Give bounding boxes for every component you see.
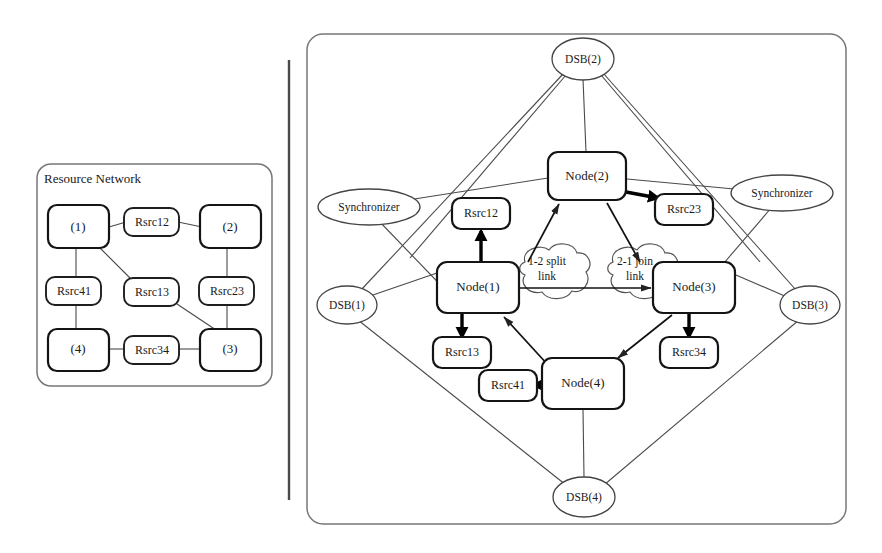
dsb-1: DSB(1) <box>317 286 377 324</box>
dsb-1-label: DSB(1) <box>329 299 365 312</box>
left-node-4: (4) <box>48 329 109 371</box>
join-link-label: 2-1 join link <box>617 255 653 282</box>
dsb-4-label: DSB(4) <box>566 491 602 504</box>
left-node-2: (2) <box>200 205 261 248</box>
node-flow-arrows <box>504 203 672 365</box>
dsb-3: DSB(3) <box>780 286 840 324</box>
left-resource-rsrc13-label: Rsrc13 <box>135 285 169 299</box>
right-node-4: Node(4) <box>542 358 624 409</box>
left-resource-rsrc34-label: Rsrc34 <box>135 343 169 357</box>
right-resource-rsrc41-label: Rsrc41 <box>491 378 525 392</box>
right-resource-rsrc13: Rsrc13 <box>433 337 491 368</box>
left-resource-rsrc23-label: Rsrc23 <box>210 284 244 298</box>
join-link-label-line2: link <box>626 270 644 282</box>
split-link-label: 1-2 split link <box>528 255 567 282</box>
right-node-1-label: Node(1) <box>456 279 499 294</box>
dsb-2: DSB(2) <box>552 38 614 80</box>
right-resource-rsrc13-label: Rsrc13 <box>445 345 479 359</box>
right-resource-rsrc23-label: Rsrc23 <box>667 202 701 216</box>
split-link-label-line1: 1-2 split <box>528 255 567 268</box>
resource-network-title: Resource Network <box>44 171 142 186</box>
left-node-1: (1) <box>48 205 109 248</box>
left-resource-rsrc41: Rsrc41 <box>46 277 101 305</box>
synchronizer-left: Synchronizer <box>318 189 420 225</box>
right-node-4-label: Node(4) <box>561 375 604 390</box>
right-resource-rsrc23: Rsrc23 <box>655 194 713 225</box>
left-resource-rsrc41-label: Rsrc41 <box>57 284 91 298</box>
right-resource-rsrc41: Rsrc41 <box>479 370 537 401</box>
distributed-system-panel-border <box>307 34 846 524</box>
right-node-3-label: Node(3) <box>672 279 715 294</box>
right-resource-rsrc12: Rsrc12 <box>452 198 510 229</box>
resource-network-panel: Resource Network (1) (2) (3) <box>37 164 272 386</box>
left-node-4-label: (4) <box>70 341 85 356</box>
left-resource-rsrc12: Rsrc12 <box>124 208 179 236</box>
dsb-4: DSB(4) <box>553 477 615 517</box>
right-node-1: Node(1) <box>437 262 519 313</box>
left-resource-rsrc23: Rsrc23 <box>199 277 254 305</box>
right-node-2-label: Node(2) <box>565 168 608 183</box>
arrow-node2-rsrc23 <box>626 192 658 198</box>
right-node-2: Node(2) <box>548 152 626 200</box>
dsb-2-label: DSB(2) <box>565 53 601 66</box>
right-resource-rsrc34: Rsrc34 <box>660 337 718 368</box>
synchronizer-left-label: Synchronizer <box>338 201 399 214</box>
left-node-1-label: (1) <box>70 219 85 234</box>
left-resource-rsrc34: Rsrc34 <box>124 336 179 364</box>
right-node-3: Node(3) <box>653 262 735 313</box>
synchronizer-right-label: Synchronizer <box>751 187 812 200</box>
split-link-label-line2: link <box>538 270 556 282</box>
figure-canvas: Resource Network (1) (2) (3) <box>0 0 882 553</box>
right-resource-rsrc12-label: Rsrc12 <box>464 206 498 220</box>
left-resource-rsrc12-label: Rsrc12 <box>135 215 169 229</box>
left-node-3: (3) <box>200 329 261 371</box>
left-node-2-label: (2) <box>222 219 237 234</box>
left-resource-rsrc13: Rsrc13 <box>124 278 179 306</box>
distributed-system-panel: DSB(2) DSB(1) DSB(3) DSB(4) Synchronizer… <box>307 34 846 524</box>
dsb-3-label: DSB(3) <box>792 299 828 312</box>
join-link-label-line1: 2-1 join <box>617 255 653 268</box>
synchronizer-right: Synchronizer <box>731 175 833 211</box>
left-node-3-label: (3) <box>222 341 237 356</box>
right-resource-rsrc34-label: Rsrc34 <box>672 345 706 359</box>
